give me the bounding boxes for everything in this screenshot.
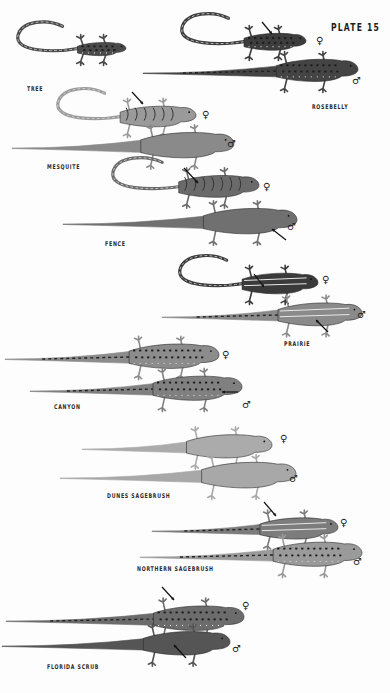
male-symbol-icon: ♂ [353, 557, 362, 567]
male-symbol-icon: ♂ [287, 222, 296, 232]
female-symbol-icon: ♀ [263, 182, 270, 192]
lizard-canyon-female [5, 336, 219, 380]
lizard-mesquite-female [58, 89, 196, 138]
female-symbol-icon: ♀ [202, 110, 209, 120]
lizard-tree [18, 22, 126, 66]
species-label-fence: FENCE [105, 240, 126, 248]
species-label-rosebelly: ROSEBELLY [312, 103, 348, 111]
species-label-dunes-sagebrush: DUNES SAGEBRUSH [107, 492, 171, 500]
species-label-canyon: CANYON [54, 403, 81, 411]
pointer-arrow-icon [272, 229, 286, 240]
lizard-dunes-sagebrush-male [60, 455, 296, 500]
species-label-florida-scrub: FLORIDA SCRUB [47, 663, 99, 671]
lizard-prairie-female [180, 256, 318, 305]
species-label-prairie: PRAIRIE [284, 340, 310, 348]
species-label-mesquite: MESQUITE [47, 163, 80, 171]
female-symbol-icon: ♀ [316, 36, 323, 46]
female-symbol-icon: ♀ [322, 275, 329, 285]
lizard-fence-male [63, 201, 297, 246]
pointer-arrow-icon [132, 92, 143, 104]
female-symbol-icon: ♀ [242, 601, 249, 611]
lizard-prairie-male [162, 295, 362, 337]
plate-title: PLATE 15 [331, 22, 380, 33]
male-symbol-icon: ♂ [242, 400, 251, 410]
lizard-fence-female [113, 158, 259, 209]
pointer-arrow-icon [262, 22, 272, 34]
male-symbol-icon: ♂ [227, 139, 236, 149]
male-symbol-icon: ♂ [352, 76, 361, 86]
female-symbol-icon: ♀ [340, 518, 347, 528]
species-label-tree: TREE [27, 85, 43, 93]
male-symbol-icon: ♂ [289, 474, 298, 484]
female-symbol-icon: ♀ [222, 350, 229, 360]
species-label-northern-sagebrush: NORTHERN SAGEBRUSH [137, 565, 214, 573]
field-guide-plate: PLATE 15 TREE ROSEBELLY MESQUITE FENCE P… [0, 0, 390, 693]
male-symbol-icon: ♂ [357, 310, 366, 320]
male-symbol-icon: ♂ [232, 644, 241, 654]
female-symbol-icon: ♀ [280, 434, 287, 444]
